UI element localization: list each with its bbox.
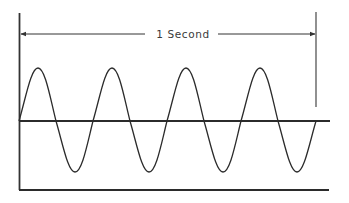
sine-wave-diagram: 1 Second [0, 0, 349, 203]
duration-label: 1 Second [156, 28, 209, 40]
sine-wave [19, 68, 316, 172]
